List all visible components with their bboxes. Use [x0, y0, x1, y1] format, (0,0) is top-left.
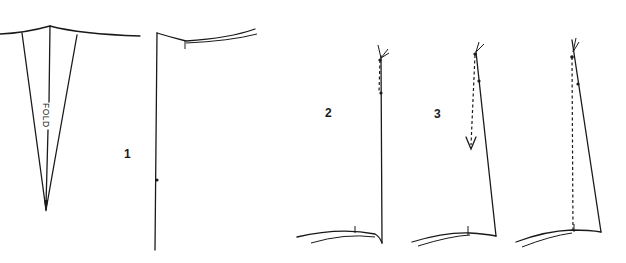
- side-seam-line: [155, 33, 157, 250]
- top-point: [378, 58, 381, 61]
- step-2-label: 2: [325, 106, 332, 120]
- hem-curve-lower: [418, 235, 470, 246]
- waist-mark-3: [381, 53, 389, 58]
- waist-mark-2: [381, 49, 388, 58]
- side-seam-line: [381, 56, 382, 243]
- folded-dart-panel: FOLD: [0, 26, 140, 212]
- dashed-vertical-line: [572, 57, 573, 230]
- step-3-label: 3: [434, 107, 441, 121]
- waist-curve-upper: [157, 29, 255, 41]
- step-3-panel: 3: [412, 42, 496, 246]
- pattern-diagram: FOLD 1 2 3: [0, 0, 626, 263]
- top-point: [570, 55, 574, 59]
- hem-curve-upper: [412, 233, 496, 242]
- fold-line-bottom: [46, 130, 48, 205]
- dashed-measure-line: [379, 60, 380, 92]
- measure-point: [576, 82, 579, 85]
- hem-curve-lower: [311, 236, 375, 243]
- dashed-arrow-line: [471, 55, 475, 145]
- fold-label: FOLD: [41, 103, 51, 128]
- hem-curve-lower: [522, 233, 572, 247]
- fold-line-top: [49, 26, 50, 102]
- hip-point: [155, 178, 158, 181]
- waist-mark-1: [378, 45, 381, 58]
- hem-curve-upper: [516, 230, 601, 242]
- step-4-panel: [516, 38, 601, 247]
- side-seam-line: [572, 40, 601, 232]
- waist-curve: [0, 26, 140, 36]
- step-1-label: 1: [124, 147, 131, 161]
- measure-point: [477, 79, 480, 82]
- step-1-panel: 1: [124, 29, 257, 250]
- top-point: [473, 52, 476, 55]
- waist-curve-lower: [186, 34, 257, 43]
- measure-point: [379, 91, 382, 94]
- dart-point: [44, 200, 48, 212]
- step-2-panel: 2: [297, 45, 389, 243]
